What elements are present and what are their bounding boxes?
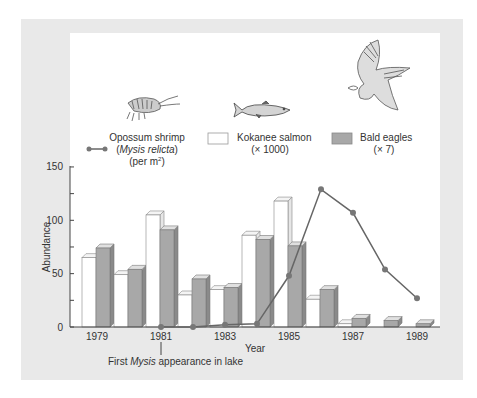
legend-shrimp: Opossum shrimp (Mysis relicta) (per m2) bbox=[87, 132, 186, 167]
y-axis: 050100150 Abundance bbox=[41, 161, 74, 332]
data-point bbox=[254, 321, 260, 327]
bar bbox=[192, 279, 206, 327]
data-point bbox=[286, 273, 292, 279]
legend-shrimp-line3: (per m2) bbox=[129, 156, 165, 167]
legend-salmon: Kokanee salmon (× 1000) bbox=[208, 132, 312, 155]
bar bbox=[114, 275, 128, 327]
data-point bbox=[318, 186, 324, 192]
legend-salmon-label: Kokanee salmon bbox=[237, 132, 312, 143]
data-point bbox=[350, 210, 356, 216]
x-tick-label: 1985 bbox=[278, 331, 301, 342]
y-tick-label: 150 bbox=[46, 161, 63, 172]
eagle-icon bbox=[348, 40, 410, 110]
x-tick-label: 1987 bbox=[342, 331, 365, 342]
legend: Opossum shrimp (Mysis relicta) (per m2) … bbox=[87, 132, 413, 167]
bar bbox=[320, 290, 334, 327]
y-tick-label: 0 bbox=[57, 322, 63, 333]
annotation-text: First Mysis appearance in lake bbox=[108, 356, 244, 367]
x-tick-label: 1983 bbox=[214, 331, 237, 342]
bar bbox=[274, 201, 288, 327]
y-axis-label: Abundance bbox=[41, 221, 52, 272]
x-tick-label: 1989 bbox=[406, 331, 429, 342]
bar bbox=[160, 230, 174, 327]
x-tick-label: 1981 bbox=[150, 331, 173, 342]
bar bbox=[224, 288, 238, 327]
bar bbox=[306, 299, 320, 327]
legend-eagle-unit: (× 7) bbox=[374, 144, 395, 155]
bar bbox=[82, 258, 96, 327]
data-point bbox=[382, 266, 388, 272]
chart-svg: Opossum shrimp (Mysis relicta) (per m2) … bbox=[0, 0, 477, 398]
legend-salmon-unit: (× 1000) bbox=[251, 144, 289, 155]
data-point bbox=[158, 324, 164, 330]
bar bbox=[128, 269, 142, 327]
y-tick-label: 50 bbox=[52, 268, 64, 279]
bar bbox=[242, 235, 256, 327]
legend-eagle-label: Bald eagles bbox=[360, 132, 412, 143]
legend-shrimp-line2: (Mysis relicta) bbox=[116, 144, 178, 155]
x-axis-label: Year bbox=[245, 343, 266, 354]
data-point bbox=[190, 324, 196, 330]
fish-icon bbox=[234, 101, 290, 118]
x-tick-label: 1979 bbox=[86, 331, 109, 342]
bar bbox=[384, 321, 398, 327]
shrimp-icon bbox=[127, 96, 180, 121]
data-point bbox=[414, 295, 420, 301]
bar bbox=[178, 295, 192, 327]
x-axis: 197919811983198519871989 Year bbox=[70, 327, 440, 354]
data-point bbox=[222, 322, 228, 328]
legend-shrimp-line1: Opossum shrimp bbox=[109, 132, 185, 143]
bar bbox=[352, 318, 366, 327]
bar bbox=[96, 248, 110, 327]
bar bbox=[210, 290, 224, 327]
annotation-first-mysis: First Mysis appearance in lake bbox=[108, 342, 244, 367]
bar bbox=[146, 215, 160, 327]
legend-eagle: Bald eagles (× 7) bbox=[332, 132, 412, 155]
